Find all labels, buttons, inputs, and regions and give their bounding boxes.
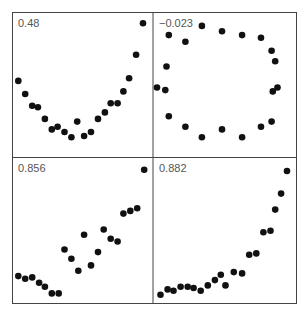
- data-point: [68, 134, 75, 141]
- data-point: [199, 134, 206, 141]
- data-point: [88, 262, 95, 269]
- data-point: [166, 32, 173, 39]
- data-point: [231, 269, 238, 276]
- data-point: [49, 126, 56, 133]
- data-point: [22, 91, 29, 98]
- data-point: [267, 228, 274, 235]
- data-point: [258, 124, 265, 131]
- data-point: [268, 48, 275, 55]
- data-point: [182, 124, 189, 131]
- data-point: [246, 252, 253, 259]
- data-point: [42, 283, 49, 290]
- data-point: [184, 283, 191, 290]
- data-point: [219, 28, 226, 35]
- data-point: [75, 267, 82, 274]
- data-point: [36, 279, 43, 286]
- data-point: [253, 250, 260, 257]
- data-point: [29, 103, 36, 110]
- data-point: [157, 291, 164, 298]
- data-point: [272, 58, 279, 65]
- data-point: [272, 206, 279, 213]
- data-point: [140, 20, 147, 27]
- data-point: [49, 290, 56, 297]
- data-point: [154, 84, 161, 91]
- panel-frames: [12, 12, 297, 304]
- panel-label-top-right: −0.023: [159, 17, 193, 29]
- data-point: [114, 238, 121, 245]
- data-point: [222, 282, 229, 289]
- data-point: [268, 118, 275, 125]
- data-point: [133, 52, 140, 59]
- data-point: [61, 129, 68, 136]
- panel-label-bottom-left: 0.856: [18, 162, 46, 174]
- data-point: [239, 270, 246, 277]
- data-point: [177, 283, 184, 290]
- data-point: [239, 134, 246, 141]
- data-point: [68, 255, 75, 262]
- data-point: [29, 274, 36, 281]
- data-point: [120, 88, 127, 95]
- data-point: [284, 168, 291, 175]
- data-point: [190, 285, 197, 292]
- data-point: [182, 38, 189, 45]
- scatter-matrix: 0.48 −0.023 0.856 0.882: [0, 0, 308, 314]
- data-point: [164, 286, 171, 293]
- data-point: [239, 32, 246, 39]
- data-point: [126, 75, 133, 82]
- data-point: [61, 246, 68, 253]
- data-point: [270, 88, 277, 95]
- data-point: [54, 124, 61, 131]
- data-point: [95, 249, 102, 256]
- data-point: [166, 113, 173, 120]
- data-point: [278, 190, 285, 197]
- data-point: [107, 236, 114, 243]
- data-point: [81, 232, 88, 239]
- data-point: [55, 290, 62, 297]
- data-point: [162, 87, 169, 94]
- data-point: [205, 282, 212, 289]
- data-point: [218, 271, 225, 278]
- data-point: [107, 100, 114, 107]
- data-point: [42, 116, 49, 123]
- data-point: [219, 126, 226, 133]
- panel-label-top-left: 0.48: [18, 17, 39, 29]
- panel-label-bottom-right: 0.882: [159, 162, 187, 174]
- data-point: [114, 100, 121, 107]
- data-point: [15, 273, 22, 280]
- data-point: [35, 104, 42, 111]
- data-point: [95, 116, 102, 123]
- data-point: [197, 287, 204, 294]
- data-point: [81, 133, 88, 140]
- data-point: [127, 208, 134, 215]
- data-point: [170, 287, 177, 294]
- panel-labels: 0.48 −0.023 0.856 0.882: [18, 17, 193, 174]
- data-point: [258, 34, 265, 41]
- data-point: [100, 226, 107, 233]
- data-point: [141, 166, 148, 173]
- data-point: [120, 210, 127, 217]
- data-point: [260, 229, 267, 236]
- data-point: [163, 63, 170, 70]
- data-point: [88, 129, 95, 136]
- data-point: [134, 205, 141, 212]
- data-point: [22, 275, 29, 282]
- data-point: [102, 109, 109, 116]
- data-point: [199, 23, 206, 30]
- data-point: [15, 78, 22, 85]
- data-point: [212, 277, 219, 284]
- data-point: [74, 118, 81, 125]
